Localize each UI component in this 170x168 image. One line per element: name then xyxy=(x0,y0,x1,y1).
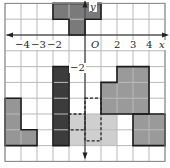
right-medium-shape-cell xyxy=(101,98,117,114)
x-axis-arrow-left-icon xyxy=(6,33,13,38)
y-axis-arrow-down-icon xyxy=(83,152,88,159)
left-l-shape-cell xyxy=(5,130,21,146)
dark-bar-cell xyxy=(53,82,69,98)
x-tick-label: 4 xyxy=(145,40,153,50)
left-l-shape-cell xyxy=(5,114,21,130)
dark-bar-cell xyxy=(53,67,69,83)
y-axis-label: y xyxy=(89,2,97,12)
light-region-cell xyxy=(101,130,117,146)
x-tick-label: 2 xyxy=(113,40,121,50)
right-medium-shape-cell xyxy=(133,67,149,83)
left-l-shape-cell xyxy=(21,130,37,146)
bottom-right-square-cell xyxy=(133,130,149,146)
light-region-cell xyxy=(69,114,85,130)
top-t-shape-cell xyxy=(69,3,85,19)
light-region-cell xyxy=(85,114,101,130)
grid-canvas xyxy=(0,0,170,168)
right-medium-shape-cell xyxy=(117,67,133,83)
x-tick-label: −4 xyxy=(14,40,31,50)
right-medium-shape-cell xyxy=(133,82,149,98)
light-region-cell xyxy=(85,130,101,146)
right-medium-shape-cell xyxy=(101,82,117,98)
light-region-cell xyxy=(101,114,117,130)
dark-bar-cell xyxy=(53,114,69,130)
right-medium-shape-cell xyxy=(117,98,133,114)
left-l-shape-cell xyxy=(5,98,21,114)
dark-bar-cell xyxy=(53,130,69,146)
y-tick-label: −2 xyxy=(69,63,86,73)
bottom-right-square-cell xyxy=(149,114,165,130)
coordinate-grid-figure xyxy=(0,0,170,168)
light-region-cell xyxy=(69,130,85,146)
x-tick-label: 3 xyxy=(129,40,137,50)
bottom-right-square-cell xyxy=(133,114,149,130)
x-axis-label: x xyxy=(158,40,166,50)
dark-bar-cell xyxy=(53,98,69,114)
right-medium-shape-cell xyxy=(133,98,149,114)
top-t-shape-cell xyxy=(69,19,85,35)
x-tick-label: −2 xyxy=(46,40,63,50)
origin-label: O xyxy=(90,40,100,50)
x-tick-label: −3 xyxy=(30,40,47,50)
right-medium-shape-cell xyxy=(117,82,133,98)
top-t-shape-cell xyxy=(53,3,69,19)
bottom-right-square-cell xyxy=(149,130,165,146)
